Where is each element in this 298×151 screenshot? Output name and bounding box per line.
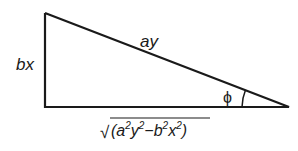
angle-arc	[242, 90, 246, 107]
triangle-diagram: bx ay ϕ √ (a2y2−b2x2)	[0, 0, 298, 151]
vertical-side-label: bx	[16, 55, 34, 74]
base-label: √ (a2y2−b2x2)	[100, 118, 210, 142]
base-expression: (a2y2−b2x2)	[111, 120, 187, 139]
angle-label: ϕ	[223, 89, 232, 106]
radical-sign: √	[100, 123, 110, 142]
triangle-shape	[45, 13, 289, 107]
hypotenuse-label: ay	[140, 32, 159, 51]
